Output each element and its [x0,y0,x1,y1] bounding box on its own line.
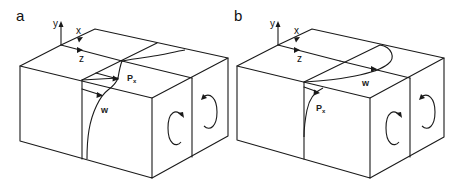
x-arrow-icon [77,37,83,43]
velocity-label-a: w [100,105,109,115]
box-outline-b [237,29,444,178]
vortex-b-front [386,112,402,145]
velocity-label-b: w [361,78,370,88]
panel-a: a y x z [16,7,228,178]
panel-label-b: b [234,7,242,24]
pressure-label-b: Px [316,103,326,114]
y-axis-label-b: y [270,18,275,29]
pressure-label-a: Px [127,73,137,84]
vortex-b-back [419,94,435,128]
rotation-arrow-icon [178,112,184,118]
x-axis-label-a: x [76,25,81,36]
rotation-arrow-icon [396,112,402,118]
z-axis-label-b: z [297,53,302,64]
flow-profile-b [304,45,392,137]
figure: a y x z [0,0,463,185]
flow-profile-a [82,50,185,159]
y-arrow-icon [59,21,64,27]
x-axis-label-b: x [294,25,299,36]
x-arrow-icon [294,37,300,43]
panel-label-a: a [16,7,25,24]
panel-b: b y x z w [234,7,444,178]
axes-b: y x z [270,18,340,64]
y-arrow-icon [276,21,281,27]
z-axis-label-a: z [79,53,84,64]
vortex-a-front [168,112,184,145]
y-axis-label-a: y [53,18,58,29]
box-outline-a [20,29,228,178]
vortex-a-back [201,94,217,128]
axes-a: y x z [53,18,122,64]
